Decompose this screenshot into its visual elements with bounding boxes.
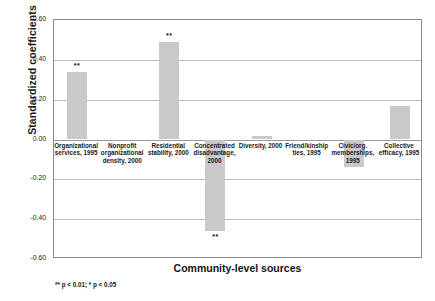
y-tick-label: -0.60 — [12, 254, 46, 261]
y-tick-label: -0.40 — [12, 214, 46, 221]
category-label-line: Organizational — [54, 142, 98, 150]
category-label-line: Concentrated — [192, 142, 236, 150]
category-label: Residentialstability, 2000 — [146, 142, 190, 157]
category-label-line: density, 2000 — [100, 157, 144, 165]
category-label-line: stability, 2000 — [146, 149, 190, 157]
x-axis-title: Community-level sources — [53, 262, 422, 274]
category-label-line: ties, 1995 — [285, 149, 329, 157]
category-label-line: efficacy, 1995 — [377, 149, 421, 157]
category-label-line: Civic/org. — [331, 142, 375, 150]
category-label-line: Collective — [377, 142, 421, 150]
y-axis-title: Standardized coefficients — [26, 0, 46, 150]
category-label: Civic/org.memberships,1995 — [331, 142, 375, 165]
significance-footnote: ** p < 0.01; * p < 0.05 — [55, 281, 116, 288]
category-label: Diversity, 2000 — [239, 142, 283, 150]
category-label: Organizationalservices, 1995 — [54, 142, 98, 157]
category-label-line: Residential — [146, 142, 190, 150]
category-label-line: memberships, — [331, 149, 375, 157]
bar-chart: Standardized coefficients ****** 0.600.4… — [0, 0, 435, 301]
category-label-line: organizational — [100, 149, 144, 157]
category-label-line: Diversity, 2000 — [239, 142, 283, 150]
x-axis-category-labels: Organizationalservices, 1995Nonprofitorg… — [53, 0, 422, 301]
category-label: Nonprofitorganizationaldensity, 2000 — [100, 142, 144, 165]
category-label-line: Friend/kinship — [285, 142, 329, 150]
category-label-line: Nonprofit — [100, 142, 144, 150]
category-label: Friend/kinshipties, 1995 — [285, 142, 329, 157]
category-label-line: disadvantage, — [192, 149, 236, 157]
category-label-line: 2000 — [192, 157, 236, 165]
category-label: Concentrateddisadvantage,2000 — [192, 142, 236, 165]
category-label: Collectiveefficacy, 1995 — [377, 142, 421, 157]
y-tick-label: -0.20 — [12, 174, 46, 181]
category-label-line: 1995 — [331, 157, 375, 165]
category-label-line: services, 1995 — [54, 149, 98, 157]
